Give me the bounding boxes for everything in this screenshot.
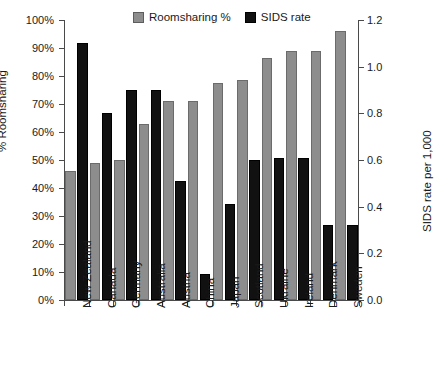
y-tick-label-right: 0.6 — [367, 154, 382, 166]
y-tick-label-right: 0.2 — [367, 247, 382, 259]
bar-group — [311, 20, 334, 300]
bar-roomsharing — [188, 101, 199, 300]
y-tick-right — [359, 67, 364, 68]
y-tick-label-right: 1.0 — [367, 61, 382, 73]
y-tick-left — [59, 20, 64, 21]
x-axis-label: Sweden — [352, 266, 364, 308]
x-axis-label: Ukraine — [278, 268, 290, 308]
y-tick-right — [359, 113, 364, 114]
y-tick-left — [59, 104, 64, 105]
y-tick-left — [59, 188, 64, 189]
bar-roomsharing — [65, 171, 76, 300]
y-tick-label-right: 0.4 — [367, 201, 382, 213]
y-tick-left — [59, 272, 64, 273]
y-tick-label-right: 0.8 — [367, 107, 382, 119]
y-tick-left — [59, 216, 64, 217]
x-axis-label: Japan — [229, 277, 241, 308]
bar-group — [262, 20, 285, 300]
x-axis-label: Ireland — [303, 273, 315, 308]
y-tick-right — [359, 20, 364, 21]
y-tick-label-left: 90% — [32, 42, 54, 54]
y-tick-right — [359, 160, 364, 161]
bar-group — [90, 20, 113, 300]
sids-roomsharing-bar-chart: Roomsharing % SIDS rate % Roomsharing SI… — [0, 0, 435, 384]
y-tick-left — [59, 132, 64, 133]
x-axis-label: Scotland — [253, 263, 265, 308]
bar-group — [188, 20, 211, 300]
y-tick-left — [59, 76, 64, 77]
y-tick-label-left: 10% — [32, 266, 54, 278]
bar-group — [286, 20, 309, 300]
x-axis-label: Canada — [106, 268, 118, 308]
x-axis-label: Australia — [155, 263, 167, 308]
y-tick-left — [59, 160, 64, 161]
x-axis-label: Germany — [130, 261, 142, 308]
y-tick-label-left: 70% — [32, 98, 54, 110]
bar-group — [114, 20, 137, 300]
y-tick-label-right: 0.0 — [367, 294, 382, 306]
bar-roomsharing — [213, 83, 224, 300]
y-tick-label-left: 80% — [32, 70, 54, 82]
y-tick-left — [59, 244, 64, 245]
y-tick-label-left: 100% — [26, 14, 54, 26]
bar-roomsharing — [335, 31, 346, 300]
bar-group — [213, 20, 236, 300]
bar-roomsharing — [237, 80, 248, 300]
y-tick-label-left: 30% — [32, 210, 54, 222]
plot-area: 0%10%20%30%40%50%60%70%80%90%100% 0.00.2… — [64, 20, 359, 301]
bar-roomsharing — [286, 51, 297, 300]
y-tick-label-left: 50% — [32, 154, 54, 166]
x-axis-label: Denmark — [327, 261, 339, 308]
bar-group — [139, 20, 162, 300]
y-tick-label-left: 20% — [32, 238, 54, 250]
y-tick-right — [359, 207, 364, 208]
y-tick-right — [359, 253, 364, 254]
y-axis-left-title: % Roomsharing — [0, 70, 8, 152]
bar-group — [335, 20, 358, 300]
x-axis-label: New Zealand — [81, 240, 93, 308]
x-tick — [64, 301, 65, 306]
bar-group — [237, 20, 260, 300]
y-tick-label-left: 0% — [38, 294, 54, 306]
x-axis-label: China — [204, 278, 216, 308]
y-tick-label-right: 1.2 — [367, 14, 382, 26]
x-axis-label: Austria — [180, 272, 192, 308]
bar-roomsharing — [311, 51, 322, 300]
y-tick-label-left: 60% — [32, 126, 54, 138]
bar-group — [163, 20, 186, 300]
y-tick-label-left: 40% — [32, 182, 54, 194]
y-axis-right-title: SIDS rate per 1,000 — [421, 130, 433, 232]
y-tick-left — [59, 48, 64, 49]
